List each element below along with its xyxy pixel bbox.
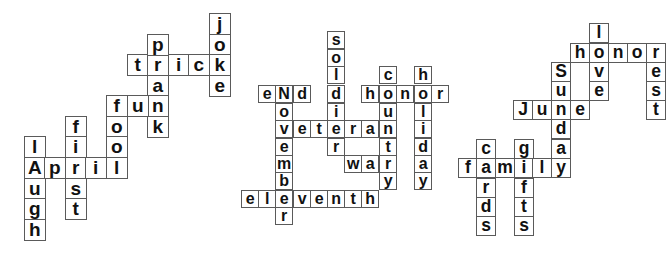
crossword-cell: o <box>589 43 609 63</box>
crossword-cell: c <box>476 139 496 159</box>
crossword-cell: t <box>514 197 534 217</box>
crossword-cell: a <box>476 158 496 178</box>
crossword-cell: l <box>589 23 609 43</box>
crossword-cell: d <box>476 197 496 217</box>
crossword-cell: l <box>532 158 552 178</box>
crossword-cell: v <box>589 62 609 82</box>
crossword-cell: J <box>513 100 533 120</box>
crossword-cell: h <box>570 43 590 63</box>
crossword-cell: n <box>608 43 628 63</box>
crossword-cell: y <box>551 158 571 178</box>
crossword-cell: d <box>551 119 571 139</box>
crossword-cell: m <box>495 158 515 178</box>
crossword-cell: u <box>532 100 552 120</box>
crossword-cell: r <box>646 43 666 63</box>
crossword-cell: S <box>551 62 571 82</box>
crossword-cell: e <box>589 81 609 101</box>
crossword-cell: e <box>570 100 590 120</box>
crossword-cell: s <box>646 81 666 101</box>
crossword-cell: u <box>551 81 571 101</box>
crossword-cell: s <box>476 216 496 236</box>
crossword-cell: t <box>646 100 666 120</box>
crossword-cell: i <box>514 158 534 178</box>
crossword-cell: a <box>551 139 571 159</box>
crossword-cell: o <box>627 43 647 63</box>
crossword-cell: f <box>458 158 478 178</box>
crossword-cell: s <box>514 216 534 236</box>
crossword-cell: f <box>514 178 534 198</box>
crossword-cell: e <box>646 62 666 82</box>
crossword-cell: g <box>514 139 534 159</box>
crossword-cell: r <box>476 178 496 198</box>
crossword-cell: n <box>551 100 571 120</box>
